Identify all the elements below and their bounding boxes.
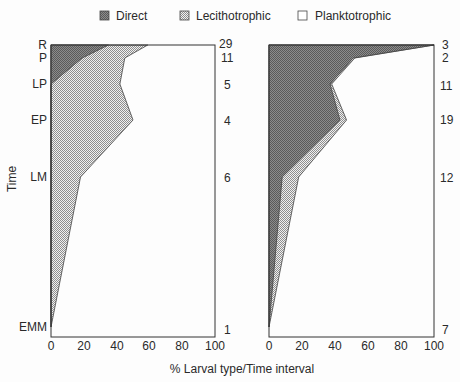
right-xtick-100: 100 bbox=[424, 339, 444, 353]
left-lecithotrophic-area bbox=[51, 45, 148, 327]
left-x-ticks: 0 20 40 60 80 100 bbox=[48, 339, 226, 353]
left-count-emm: 1 bbox=[224, 323, 231, 337]
legend-direct-label: Direct bbox=[116, 9, 148, 23]
right-count-ep: 19 bbox=[440, 113, 454, 127]
right-xtick-20: 20 bbox=[295, 339, 309, 353]
left-counts: 29 11 5 4 6 1 bbox=[219, 37, 234, 337]
y-axis-title: Time bbox=[5, 166, 19, 193]
left-count-ep: 4 bbox=[224, 114, 231, 128]
interval-label-emm: EMM bbox=[19, 320, 47, 334]
left-xtick-80: 80 bbox=[175, 339, 189, 353]
left-count-p: 11 bbox=[221, 51, 234, 65]
left-xtick-60: 60 bbox=[142, 339, 156, 353]
interval-label-lp: LP bbox=[32, 77, 47, 91]
right-count-emm: 7 bbox=[442, 323, 449, 337]
legend-planktotrophic-swatch bbox=[298, 11, 307, 20]
right-xtick-60: 60 bbox=[361, 339, 375, 353]
right-x-ticks: 0 20 40 60 80 100 bbox=[266, 339, 445, 353]
interval-label-r: R bbox=[38, 38, 47, 52]
right-counts: 3 2 11 19 12 7 bbox=[440, 38, 454, 337]
right-panel: 3 2 11 19 12 7 0 20 40 60 80 100 bbox=[266, 38, 454, 353]
larval-type-chart: Direct Lecithotrophic Planktotrophic Tim… bbox=[0, 0, 460, 382]
right-xtick-80: 80 bbox=[394, 339, 408, 353]
left-xtick-100: 100 bbox=[205, 339, 225, 353]
left-xtick-0: 0 bbox=[48, 339, 55, 353]
right-count-p: 2 bbox=[442, 51, 449, 65]
right-xtick-0: 0 bbox=[266, 339, 273, 353]
right-count-lp: 11 bbox=[440, 79, 453, 93]
left-xtick-20: 20 bbox=[77, 339, 91, 353]
right-xtick-40: 40 bbox=[328, 339, 342, 353]
right-count-r: 3 bbox=[442, 38, 449, 52]
left-xtick-40: 40 bbox=[110, 339, 124, 353]
interval-labels: R P LP EP LM EMM bbox=[19, 38, 47, 334]
left-count-r: 29 bbox=[219, 37, 233, 51]
left-count-lm: 6 bbox=[224, 171, 231, 185]
legend-direct-swatch bbox=[100, 11, 109, 20]
interval-label-p: P bbox=[39, 51, 47, 65]
legend: Direct Lecithotrophic Planktotrophic bbox=[100, 9, 391, 23]
legend-lecithotrophic-swatch bbox=[180, 11, 189, 20]
interval-label-ep: EP bbox=[31, 113, 47, 127]
x-axis-title: % Larval type/Time interval bbox=[170, 362, 314, 376]
left-panel: 29 11 5 4 6 1 0 20 40 60 80 100 bbox=[48, 37, 234, 353]
legend-planktotrophic-label: Planktotrophic bbox=[315, 9, 391, 23]
left-count-lp: 5 bbox=[224, 78, 231, 92]
legend-lecithotrophic-label: Lecithotrophic bbox=[196, 9, 271, 23]
right-count-lm: 12 bbox=[440, 171, 454, 185]
interval-label-lm: LM bbox=[30, 170, 47, 184]
